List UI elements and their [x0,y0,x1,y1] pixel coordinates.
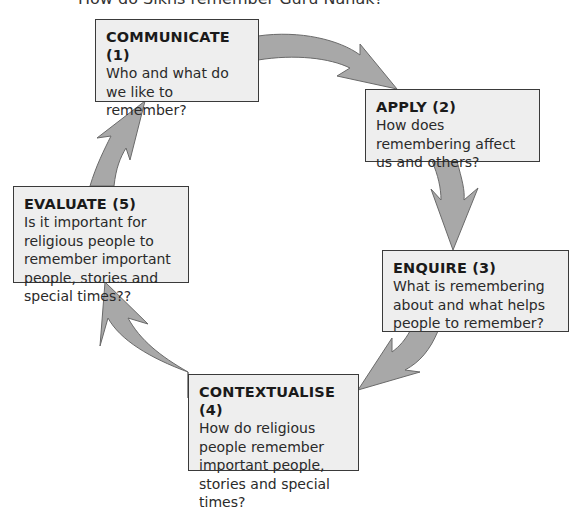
step-title: ENQUIRE (3) [393,259,558,277]
step-title: CONTEXTUALISE (4) [199,383,348,419]
step-question: How does remembering affect us and other… [376,116,529,172]
arrow-enquire-to-contextualise-icon [358,331,438,390]
step-title: EVALUATE (5) [24,195,178,213]
step-question: Who and what do we like to remember? [106,64,248,120]
step-communicate: COMMUNICATE (1) Who and what do we like … [95,19,259,102]
step-question: Is it important for religious people to … [24,213,178,306]
step-question: What is remembering about and what helps… [393,277,558,333]
step-evaluate: EVALUATE (5) Is it important for religio… [13,186,189,283]
step-question: How do religious people remember importa… [199,419,348,511]
arrow-communicate-to-apply-icon [258,34,397,89]
arrow-apply-to-enquire-icon [431,161,478,250]
step-apply: APPLY (2) How does remembering affect us… [365,89,540,162]
step-contextualise: CONTEXTUALISE (4) How do religious peopl… [188,374,359,471]
step-title: APPLY (2) [376,98,529,116]
step-enquire: ENQUIRE (3) What is remembering about an… [382,250,569,332]
step-title: COMMUNICATE (1) [106,28,248,64]
